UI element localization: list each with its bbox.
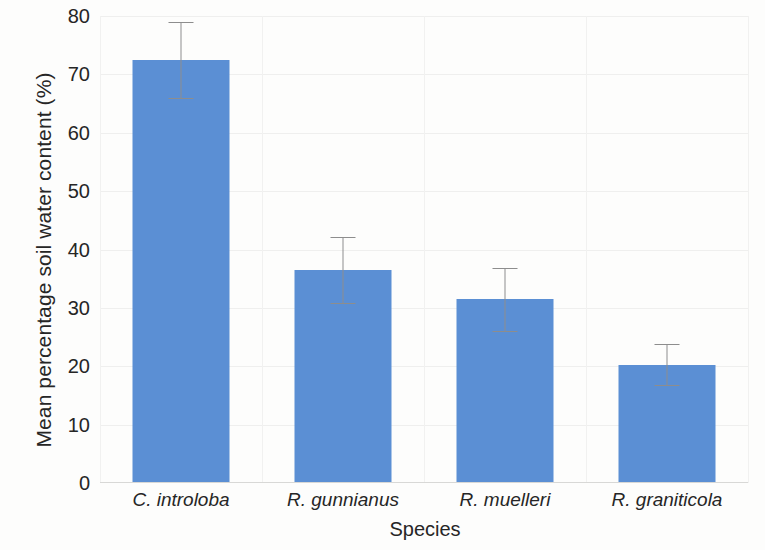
error-bar-cap-upper [655, 344, 680, 345]
bar-group [586, 16, 748, 483]
x-axis-tick-label: C. introloba [100, 489, 262, 511]
bar-chart-figure: Mean percentage soil water content (%) 8… [0, 0, 765, 550]
bar [133, 60, 230, 483]
y-axis-tick-label: 70 [38, 64, 90, 84]
error-bar-cap-lower [493, 331, 518, 332]
y-axis-tick-label: 50 [38, 181, 90, 201]
y-axis-tick-label: 0 [38, 473, 90, 493]
bar-group [424, 16, 586, 483]
x-axis-tick-label: R. muelleri [424, 489, 586, 511]
error-bar [667, 344, 668, 385]
bar-group [262, 16, 424, 483]
error-bar [181, 22, 182, 98]
x-axis-tick-label: R. gunnianus [262, 489, 424, 511]
y-axis-tick-label: 10 [38, 415, 90, 435]
y-axis-tick-labels: 80706050403020100 [32, 0, 90, 550]
y-axis-tick-label: 30 [38, 298, 90, 318]
error-bar [343, 237, 344, 304]
y-axis-tick-label: 20 [38, 356, 90, 376]
x-axis-line [100, 482, 748, 483]
error-bar-cap-upper [169, 22, 194, 23]
x-axis-title: Species [100, 518, 750, 541]
plot-area [100, 16, 748, 483]
error-bar-cap-lower [169, 98, 194, 99]
error-bar-cap-upper [331, 237, 356, 238]
y-axis-tick-label: 80 [38, 6, 90, 26]
error-bar-cap-upper [493, 268, 518, 269]
y-axis-tick-label: 40 [38, 240, 90, 260]
bar-group [100, 16, 262, 483]
error-bar [505, 268, 506, 331]
category-gridline [748, 16, 749, 483]
x-axis-tick-label: R. graniticola [586, 489, 748, 511]
error-bar-cap-lower [655, 385, 680, 386]
error-bar-cap-lower [331, 303, 356, 304]
y-axis-tick-label: 60 [38, 123, 90, 143]
